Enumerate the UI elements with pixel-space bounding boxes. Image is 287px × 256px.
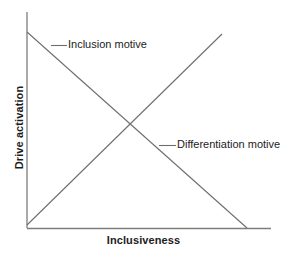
y-axis-title: Drive activation <box>14 68 25 188</box>
chart-figure: Inclusion motive Differentiation motive … <box>0 0 287 256</box>
series-label-differentiation-motive: Differentiation motive <box>177 139 280 150</box>
x-axis-title: Inclusiveness <box>0 235 287 246</box>
series-label-inclusion-motive: Inclusion motive <box>68 39 147 50</box>
series-line-differentiation-motive <box>27 34 222 225</box>
series-line-inclusion-motive <box>27 32 247 228</box>
